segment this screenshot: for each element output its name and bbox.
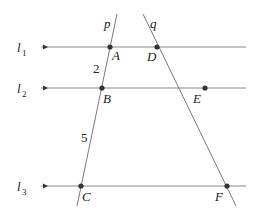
label-l3: l	[17, 179, 21, 194]
parallel-lines-diagram: l 1 l 2 l 3 p q A B C D E F 2 5	[0, 0, 262, 216]
transversal-p	[77, 14, 117, 206]
label-C: C	[82, 189, 91, 204]
point-E	[202, 85, 207, 90]
line-l2	[41, 86, 246, 91]
label-p: p	[103, 16, 111, 31]
transversal-q	[143, 14, 236, 206]
label-B: B	[103, 91, 111, 106]
line-l3	[41, 184, 246, 189]
label-D: D	[146, 49, 157, 64]
label-l3-sub: 3	[22, 187, 27, 197]
label-l2: l	[17, 81, 21, 96]
length-BC: 5	[81, 130, 88, 145]
point-B	[99, 85, 104, 90]
point-C	[78, 183, 83, 188]
arrow-right-icon	[43, 86, 48, 91]
label-l2-sub: 2	[22, 89, 27, 99]
label-l1: l	[17, 40, 21, 55]
arrow-right-icon	[43, 184, 48, 189]
point-F	[224, 183, 229, 188]
line-l1	[41, 45, 246, 50]
label-F: F	[214, 189, 224, 204]
length-AB: 2	[93, 61, 100, 76]
label-l1-sub: 1	[22, 48, 27, 58]
label-A: A	[111, 48, 120, 63]
label-E: E	[192, 91, 201, 106]
label-q: q	[150, 16, 157, 31]
arrow-right-icon	[43, 45, 48, 50]
